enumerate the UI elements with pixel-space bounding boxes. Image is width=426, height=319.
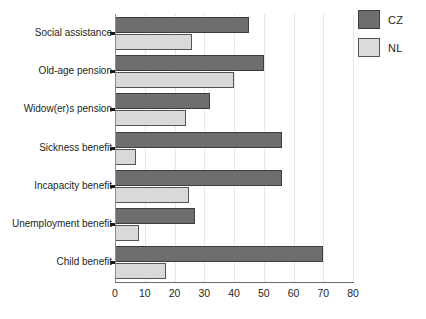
bar-cz: [115, 170, 282, 186]
x-tick-label: 50: [249, 287, 279, 299]
category-label: Old-age pension: [0, 65, 112, 76]
legend-label-cz: CZ: [388, 14, 403, 26]
legend-label-nl: NL: [388, 42, 403, 54]
x-tick-label: 70: [308, 287, 338, 299]
x-axis-line: [115, 282, 354, 283]
x-tick-label: 80: [338, 287, 368, 299]
legend-swatch-nl-icon: [358, 38, 380, 57]
x-tick-label: 20: [160, 287, 190, 299]
category-label: Child benefit: [0, 256, 112, 267]
bar-cz: [115, 246, 323, 262]
category-label: Sickness benefit: [0, 142, 112, 153]
gridline: [264, 14, 265, 282]
bar-nl: [115, 149, 136, 165]
bar-cz: [115, 17, 249, 33]
bar-cz: [115, 208, 195, 224]
x-tick-label: 60: [279, 287, 309, 299]
x-tick-label: 10: [130, 287, 160, 299]
bar-nl: [115, 34, 192, 50]
x-tick-label: 40: [219, 287, 249, 299]
bar-nl: [115, 225, 139, 241]
gridline: [323, 14, 324, 282]
plot-area: [115, 14, 353, 282]
legend: CZ NL: [358, 10, 424, 66]
category-label: Social assistance: [0, 27, 112, 38]
gridline: [294, 14, 295, 282]
y-axis-line: [115, 14, 116, 282]
bar-chart: Social assistanceOld-age pensionWidow(er…: [0, 0, 426, 319]
category-label: Unemployment benefit: [0, 218, 112, 229]
gridline: [353, 14, 354, 282]
bar-cz: [115, 55, 264, 71]
bar-nl: [115, 263, 166, 279]
category-label: Widow(er)s pension: [0, 103, 112, 114]
bar-nl: [115, 72, 234, 88]
bar-nl: [115, 110, 186, 126]
bar-cz: [115, 132, 282, 148]
x-tick-label: 0: [100, 287, 130, 299]
legend-swatch-cz-icon: [358, 10, 380, 29]
bar-cz: [115, 93, 210, 109]
legend-item-nl[interactable]: NL: [358, 38, 424, 57]
x-tick-label: 30: [189, 287, 219, 299]
legend-item-cz[interactable]: CZ: [358, 10, 424, 29]
category-label: Incapacity benefit: [0, 180, 112, 191]
bar-nl: [115, 187, 189, 203]
